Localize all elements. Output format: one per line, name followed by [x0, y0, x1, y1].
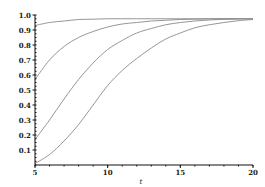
y-tick-label: 0.1: [19, 146, 31, 155]
x-axis: 5101520: [33, 165, 258, 177]
x-axis-label: t: [140, 178, 143, 186]
y-tick-label: 0.2: [19, 131, 31, 140]
x-tick-label: 20: [248, 168, 258, 177]
y-axis: 0.10.20.30.40.50.60.70.80.91.0: [19, 11, 37, 166]
x-tick-label: 5: [33, 168, 38, 177]
x-tick-label: 10: [103, 168, 113, 177]
y-tick-label: 0.4: [19, 101, 31, 110]
y-tick-label: 0.8: [19, 41, 31, 50]
curve-4: [35, 20, 253, 164]
curves: [35, 19, 253, 164]
y-tick-label: 0.6: [19, 71, 31, 80]
x-tick-label: 15: [175, 168, 185, 177]
y-tick-label: 1.0: [19, 11, 31, 20]
curve-2: [35, 19, 253, 80]
y-tick-label: 0.5: [19, 86, 31, 95]
y-tick-label: 0.7: [19, 56, 31, 65]
line-chart: 0.10.20.30.40.50.60.70.80.91.0 5101520 t: [0, 0, 265, 187]
y-tick-label: 0.9: [19, 26, 31, 35]
y-tick-label: 0.3: [19, 116, 31, 125]
curve-3: [35, 19, 253, 140]
